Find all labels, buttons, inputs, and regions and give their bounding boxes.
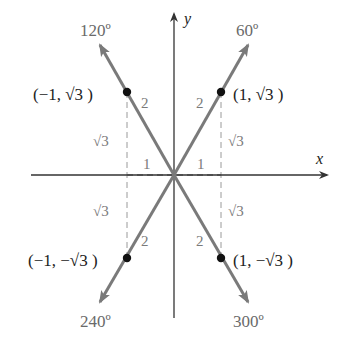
hypotenuse-label-q1: 2 [196, 95, 204, 111]
leg-label-q3: √3 [93, 203, 109, 219]
hypotenuse-label-q2: 2 [141, 95, 149, 111]
unit-triangle-diagram: y x 120º 60º 240º 300º (−1, √3 ) (1, √3 … [0, 0, 339, 354]
point-q1 [217, 88, 225, 96]
hypotenuse-label-q4: 2 [196, 233, 204, 249]
y-axis-label: y [182, 10, 192, 28]
hypotenuse-label-q3: 2 [141, 233, 149, 249]
leg-label-q4: √3 [228, 203, 244, 219]
angle-label-120: 120º [80, 21, 111, 40]
point-q2 [123, 88, 131, 96]
point-label-q4: (1, −√3 ) [233, 251, 293, 270]
x-axis-label: x [315, 150, 323, 167]
leg-label-q2: √3 [93, 133, 109, 149]
point-label-q3: (−1, −√3 ) [28, 251, 98, 270]
angle-label-300: 300º [233, 312, 264, 331]
angle-label-240: 240º [80, 312, 111, 331]
horizontal-leg-label-left: 1 [143, 156, 151, 172]
point-q3 [123, 254, 131, 262]
ray-300 [174, 175, 248, 302]
horizontal-leg-label-right: 1 [197, 156, 205, 172]
ray-240 [100, 175, 174, 302]
point-q4 [217, 254, 225, 262]
angle-label-60: 60º [236, 21, 258, 40]
ray-120 [100, 45, 174, 175]
ray-60 [174, 45, 248, 175]
point-label-q2: (−1, √3 ) [33, 85, 93, 104]
leg-label-q1: √3 [228, 133, 244, 149]
point-label-q1: (1, √3 ) [233, 85, 283, 104]
